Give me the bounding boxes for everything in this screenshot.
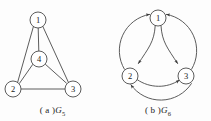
- node-2: 2: [5, 81, 21, 97]
- node-1: 1: [30, 12, 46, 28]
- arc-1-to-2: [138, 26, 155, 64]
- node-2-label: 2: [11, 84, 15, 94]
- graph-a-canvas: 1 4 2 3: [0, 0, 105, 121]
- node-4: 4: [31, 51, 47, 67]
- graph-b-nodes: 1 2 3: [122, 10, 194, 84]
- graph-b-canvas: 1 2 3: [105, 0, 211, 121]
- caption-a-prefix: ( a ): [40, 105, 56, 115]
- arc-2-to-1: [119, 14, 149, 69]
- caption-b-symbol: G: [161, 105, 168, 115]
- caption-a: ( a )G5: [0, 105, 105, 119]
- arc-1-to-3: [161, 26, 178, 64]
- graph-panel-b: 1 2 3 ( b )G6: [105, 0, 211, 121]
- node-3: 3: [65, 81, 81, 97]
- figure-root: 1 4 2 3 ( a )G5: [0, 0, 211, 121]
- graph-a-nodes: 1 4 2 3: [5, 12, 81, 97]
- caption-b-prefix: ( b ): [145, 105, 161, 115]
- node-3-label: 3: [184, 71, 188, 81]
- edge-4-3: [46, 64, 67, 83]
- arc-2-to-3: [137, 80, 179, 87]
- node-3: 3: [178, 68, 194, 84]
- edge-1-4: [38, 28, 39, 51]
- caption-a-subscript: 5: [62, 110, 65, 117]
- node-1: 1: [150, 10, 166, 26]
- caption-b: ( b )G6: [105, 105, 211, 119]
- graph-panel-a: 1 4 2 3 ( a )G5: [0, 0, 105, 121]
- node-2: 2: [122, 68, 138, 84]
- arc-3-to-1: [166, 14, 196, 69]
- node-2-label: 2: [128, 71, 132, 81]
- caption-a-symbol: G: [55, 105, 62, 115]
- node-1-label: 1: [156, 13, 160, 23]
- node-3-label: 3: [71, 84, 75, 94]
- node-1-label: 1: [36, 15, 40, 25]
- caption-b-subscript: 6: [168, 110, 171, 117]
